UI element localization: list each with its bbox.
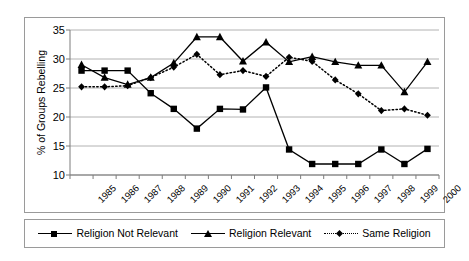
data-point-square xyxy=(309,161,315,167)
legend-entry: Religion Not Relevant xyxy=(38,228,178,239)
triangle-marker-glyph xyxy=(204,230,212,237)
data-point-square xyxy=(424,146,430,152)
legend-entry: Religion Relevant xyxy=(191,228,311,239)
diamond-marker-icon xyxy=(337,231,342,237)
series-line xyxy=(82,54,428,115)
data-point-square xyxy=(401,161,407,167)
data-point-square xyxy=(194,125,200,131)
legend-entry: Same Religion xyxy=(324,228,430,239)
legend-label: Same Religion xyxy=(362,228,430,239)
square-marker-icon xyxy=(51,231,57,237)
data-point-diamond xyxy=(355,90,362,97)
legend-key xyxy=(38,229,72,239)
series-line xyxy=(82,37,428,92)
plot-area xyxy=(25,18,444,212)
data-point-square xyxy=(332,161,338,167)
data-point-diamond xyxy=(332,76,339,83)
data-point-diamond xyxy=(424,112,431,119)
legend-key xyxy=(191,229,225,239)
data-point-square xyxy=(286,146,292,152)
axes xyxy=(66,30,439,179)
data-point-triangle xyxy=(78,61,86,68)
data-point-square xyxy=(378,146,384,152)
x-axis-tick-label: 2000 xyxy=(442,183,464,205)
data-point-triangle xyxy=(101,73,109,80)
data-point-diamond xyxy=(263,73,270,80)
data-point-diamond xyxy=(401,105,408,112)
plot-frame: % of Groups Rebelling 353025201510 19851… xyxy=(24,17,445,213)
data-point-square xyxy=(171,106,177,112)
data-point-diamond xyxy=(240,67,247,74)
data-point-square xyxy=(124,67,130,73)
square-marker-glyph xyxy=(51,231,57,237)
chart-legend: Religion Not RelevantReligion RelevantSa… xyxy=(24,219,445,248)
series-diamond xyxy=(78,51,431,119)
data-point-square xyxy=(78,67,84,73)
diamond-marker-glyph xyxy=(336,230,343,237)
legend-label: Religion Not Relevant xyxy=(76,228,178,239)
data-point-diamond xyxy=(78,83,85,90)
legend-key xyxy=(324,229,358,239)
data-point-square xyxy=(217,106,223,112)
data-point-square xyxy=(101,67,107,73)
data-point-square xyxy=(148,90,154,96)
triangle-marker-icon xyxy=(204,231,212,237)
data-point-square xyxy=(263,84,269,90)
chart-container: % of Groups Rebelling 353025201510 19851… xyxy=(0,0,469,261)
data-point-diamond xyxy=(101,83,108,90)
data-point-square xyxy=(240,106,246,112)
data-point-triangle xyxy=(262,38,270,45)
data-point-square xyxy=(355,161,361,167)
legend-label: Religion Relevant xyxy=(229,228,311,239)
